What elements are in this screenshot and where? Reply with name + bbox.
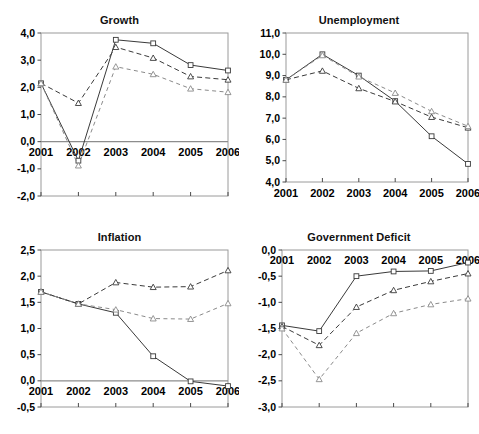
y-tick-label: -1,5	[258, 322, 276, 334]
data-point-marker	[151, 354, 156, 359]
data-point-marker	[466, 260, 471, 265]
y-tick-label: -2,0	[258, 348, 276, 360]
data-point-marker	[226, 384, 231, 389]
y-tick-label: 4,0	[265, 176, 280, 188]
data-point-marker	[225, 267, 231, 272]
data-point-marker	[317, 329, 322, 334]
x-tick-label: 2002	[310, 187, 334, 199]
x-tick-label: 2004	[141, 146, 166, 158]
y-tick-label: 3,0	[20, 54, 35, 66]
y-tick-label: 8,0	[265, 90, 280, 102]
data-point-marker	[428, 269, 433, 274]
x-tick-label: 2001	[29, 146, 53, 158]
plot-inflation: 2,52,01,51,00,50,0-0,5200120022003200420…	[0, 217, 239, 434]
data-point-marker	[188, 379, 193, 384]
data-point-marker	[188, 63, 193, 68]
y-tick-label: -3,0	[258, 401, 276, 413]
data-point-marker	[150, 55, 156, 60]
series-line-series-2	[282, 274, 468, 346]
y-tick-label: 1,5	[20, 296, 35, 308]
data-point-marker	[391, 269, 396, 274]
y-tick-label: 1,0	[20, 322, 35, 334]
data-point-marker	[113, 37, 118, 42]
chart-grid: Growth 4,03,02,01,00,0-1,0-2,02001200220…	[0, 0, 479, 434]
panel-deficit: Government Deficit 0,0-0,5-1,0-1,5-2,0-2…	[239, 217, 479, 434]
data-point-marker	[225, 300, 231, 305]
x-tick-label: 2003	[104, 385, 128, 397]
data-point-marker	[319, 68, 325, 73]
y-tick-label: 5,0	[265, 154, 280, 166]
y-tick-label: -0,5	[17, 401, 35, 413]
y-tick-label: -1,0	[17, 162, 35, 174]
data-point-marker	[226, 68, 231, 73]
x-tick-label: 2005	[178, 146, 202, 158]
series-line-series-1	[286, 54, 468, 164]
data-point-marker	[465, 123, 471, 128]
y-tick-label: -1,0	[258, 296, 276, 308]
data-point-marker	[353, 304, 359, 309]
x-tick-label: 2004	[383, 187, 408, 199]
series-line-series-2	[286, 71, 468, 128]
y-tick-label: 6,0	[265, 133, 280, 145]
series-line-series-2	[41, 270, 228, 303]
x-tick-label: 2001	[29, 385, 53, 397]
data-point-marker	[429, 108, 435, 113]
data-point-marker	[465, 296, 471, 301]
series-line-series-1	[41, 292, 228, 386]
series-line-series-1	[282, 263, 468, 332]
series-line-series-3	[41, 292, 228, 319]
x-tick-label: 2001	[270, 254, 294, 266]
data-point-marker	[428, 301, 434, 306]
data-point-marker	[353, 330, 359, 335]
x-tick-label: 2004	[141, 385, 166, 397]
x-tick-label: 2005	[419, 187, 443, 199]
y-tick-label: -2,0	[17, 190, 35, 202]
x-tick-label: 2005	[178, 385, 202, 397]
data-point-marker	[113, 64, 119, 69]
data-point-marker	[356, 85, 362, 90]
y-tick-label: 9,0	[265, 69, 280, 81]
x-tick-label: 2003	[344, 254, 368, 266]
plot-deficit: 0,0-0,5-1,0-1,5-2,0-2,5-3,02001200220032…	[239, 217, 479, 434]
x-tick-label: 2003	[104, 146, 128, 158]
data-point-marker	[466, 162, 471, 167]
data-point-marker	[429, 134, 434, 139]
x-tick-label: 2002	[66, 385, 90, 397]
y-tick-label: 10,0	[260, 48, 281, 60]
series-line-series-3	[286, 55, 468, 126]
data-point-marker	[392, 90, 398, 95]
x-tick-label: 2003	[347, 187, 371, 199]
y-tick-label: -2,5	[258, 374, 276, 386]
data-point-marker	[391, 287, 397, 292]
y-tick-label: 11,0	[260, 27, 280, 39]
data-point-marker	[151, 41, 156, 46]
x-tick-label: 2004	[381, 254, 406, 266]
series-line-series-1	[41, 40, 228, 161]
data-point-marker	[75, 100, 81, 105]
panel-growth: Growth 4,03,02,01,00,0-1,0-2,02001200220…	[0, 0, 239, 217]
plot-growth: 4,03,02,01,00,0-1,0-2,020012002200320042…	[0, 0, 239, 217]
x-tick-label: 2002	[307, 254, 331, 266]
y-tick-label: 0,5	[20, 348, 35, 360]
data-point-marker	[225, 89, 231, 94]
data-point-marker	[113, 279, 119, 284]
data-point-marker	[354, 274, 359, 279]
data-point-marker	[188, 284, 194, 289]
panel-inflation: Inflation 2,52,01,51,00,50,0-0,520012002…	[0, 217, 239, 434]
data-point-marker	[465, 271, 471, 276]
y-tick-label: 7,0	[265, 112, 280, 124]
x-tick-label: 2006	[456, 187, 479, 199]
x-tick-label: 2006	[216, 146, 239, 158]
series-line-series-3	[282, 299, 468, 380]
series-line-series-2	[41, 47, 228, 103]
y-tick-label: 2,5	[20, 244, 35, 256]
x-tick-label: 2005	[419, 254, 443, 266]
y-tick-label: 4,0	[20, 27, 35, 39]
data-point-marker	[429, 114, 435, 119]
y-tick-label: 2,0	[20, 270, 35, 282]
y-tick-label: 2,0	[20, 81, 35, 93]
x-tick-label: 2001	[274, 187, 298, 199]
y-tick-label: 1,0	[20, 108, 35, 120]
panel-unemployment: Unemployment 11,010,09,08,07,06,05,04,02…	[239, 0, 479, 217]
plot-unemployment: 11,010,09,08,07,06,05,04,020012002200320…	[239, 0, 479, 217]
